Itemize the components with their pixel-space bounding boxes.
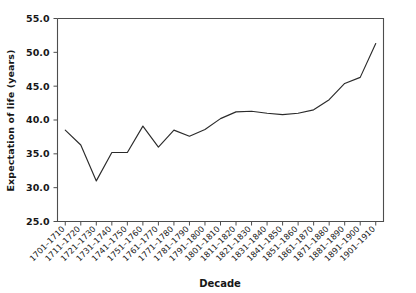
y-tick-label: 55.0 — [26, 13, 50, 24]
y-tick-label: 50.0 — [26, 47, 50, 58]
y-axis-ticks: 25.030.035.040.045.050.055.0 — [26, 13, 57, 227]
line-chart-plot: 25.030.035.040.045.050.055.0 1701–171017… — [0, 0, 416, 293]
y-tick-label: 35.0 — [26, 148, 50, 159]
life-expectancy-line — [65, 44, 375, 181]
y-tick-label: 45.0 — [26, 81, 50, 92]
y-tick-label: 25.0 — [26, 216, 50, 227]
x-axis-ticks: 1701–17101711–17201721–17301731–17401741… — [27, 222, 377, 264]
plot-frame — [58, 19, 384, 222]
y-tick-label: 40.0 — [26, 114, 50, 125]
y-tick-label: 30.0 — [26, 182, 50, 193]
chart-figure: 25.030.035.040.045.050.055.0 1701–171017… — [0, 0, 416, 293]
